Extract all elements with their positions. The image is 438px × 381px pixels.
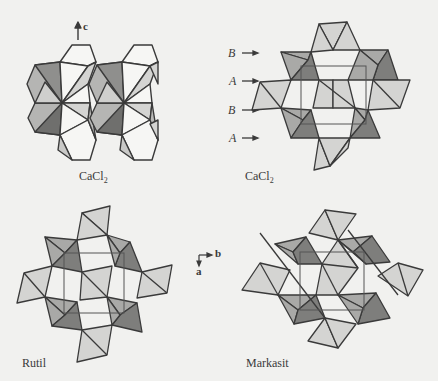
- cacl2-top-label: CaCl2: [245, 169, 274, 185]
- c-axis-label: c: [83, 20, 88, 32]
- cacl2-side-label: CaCl2: [79, 169, 108, 185]
- cacl2-top-view-panel: B A B A: [218, 0, 438, 190]
- rutil-panel: Rutil: [0, 190, 220, 381]
- cacl2-side-view-diagram: [0, 0, 220, 190]
- axis-a-label: a: [196, 265, 202, 277]
- cacl2-top-view-diagram: [218, 0, 438, 190]
- markasit-panel: Markasit: [218, 190, 438, 381]
- markasit-label: Markasit: [246, 356, 289, 371]
- markasit-diagram: [218, 190, 438, 381]
- rutil-label: Rutil: [22, 356, 46, 371]
- rutil-diagram: [0, 190, 220, 381]
- cacl2-side-view-panel: c CaCl2: [0, 0, 220, 190]
